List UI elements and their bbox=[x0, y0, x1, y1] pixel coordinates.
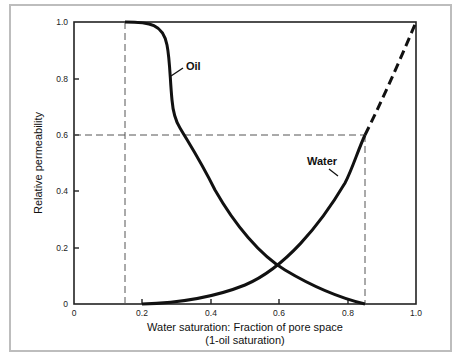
cut-off-caption bbox=[20, 355, 460, 362]
x-tick-0.6: 0.6 bbox=[273, 308, 285, 318]
oil-label: Oil bbox=[186, 60, 201, 72]
x-tick-0.8: 0.8 bbox=[342, 308, 354, 318]
x-axis-label-line2: (1-oil saturation) bbox=[205, 334, 284, 346]
oil-label-leader bbox=[171, 68, 183, 76]
y-tick-0.2: 0.2 bbox=[56, 243, 68, 253]
water-label: Water bbox=[307, 155, 338, 167]
x-axis-label: Water saturation: Fraction of pore space bbox=[147, 321, 343, 333]
x-tick-1.0: 1.0 bbox=[410, 308, 422, 318]
x-tick-0.4: 0.4 bbox=[205, 308, 217, 318]
water-label-leader bbox=[329, 169, 338, 176]
x-tick-0: 0 bbox=[72, 308, 77, 318]
y-tick-0: 0 bbox=[63, 299, 68, 309]
water-curve-extrapolated bbox=[365, 22, 416, 135]
x-tick-0.2: 0.2 bbox=[136, 308, 148, 318]
relative-permeability-chart: 0 0.2 0.4 0.6 0.8 1.0 0 0.2 0.4 0.6 0.8 … bbox=[0, 0, 461, 362]
y-tick-0.6: 0.6 bbox=[56, 130, 68, 140]
y-tick-0.4: 0.4 bbox=[56, 186, 68, 196]
y-tick-1.0: 1.0 bbox=[56, 17, 68, 27]
y-axis-label: Relative permeability bbox=[32, 111, 44, 214]
y-tick-0.8: 0.8 bbox=[56, 74, 68, 84]
